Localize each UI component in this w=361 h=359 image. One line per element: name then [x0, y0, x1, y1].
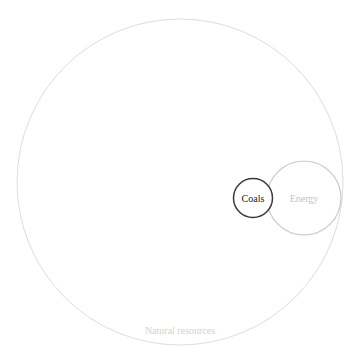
node-energy[interactable]: Energy	[267, 161, 341, 235]
circle-pack-diagram: Natural resources Energy Coals	[0, 0, 361, 359]
energy-label: Energy	[290, 193, 319, 204]
natural-resources-label: Natural resources	[145, 325, 215, 336]
node-coals[interactable]: Coals	[234, 179, 273, 218]
coals-label: Coals	[242, 193, 265, 204]
